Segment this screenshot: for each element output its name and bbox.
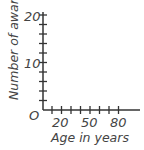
y-tick-label-20: 20: [24, 9, 41, 24]
x-axis-title: Age in years: [50, 130, 129, 145]
x-tick-label-80: 80: [110, 115, 127, 130]
y-axis-title: Number of awards: [6, 0, 21, 100]
origin-label: O: [29, 108, 39, 123]
x-tick-label-50: 50: [81, 115, 98, 130]
empty-graph: 20 10 O 20 50 80 Age in years Number of …: [0, 0, 144, 150]
x-tick-label-20: 20: [52, 115, 69, 130]
y-tick-label-10: 10: [24, 56, 41, 71]
